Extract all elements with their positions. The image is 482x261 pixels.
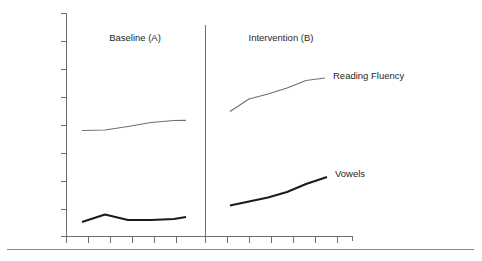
- x-axis-ticks: [67, 237, 353, 244]
- y-axis-ticks: [61, 14, 67, 237]
- series-label-vowels: Vowels: [335, 168, 365, 179]
- series-label-reading-fluency: Reading Fluency: [333, 70, 405, 81]
- reading-fluency-intervention-line: [230, 78, 325, 112]
- figure-canvas: Baseline (A) Intervention (B) Reading Fl…: [0, 0, 482, 261]
- vowels-intervention-line: [230, 177, 327, 206]
- vowels-baseline-line: [82, 215, 186, 223]
- phase-label-intervention: Intervention (B): [249, 32, 314, 43]
- reading-fluency-baseline-line: [82, 120, 186, 130]
- ab-design-line-chart: Baseline (A) Intervention (B) Reading Fl…: [0, 0, 482, 261]
- phase-label-baseline: Baseline (A): [109, 32, 161, 43]
